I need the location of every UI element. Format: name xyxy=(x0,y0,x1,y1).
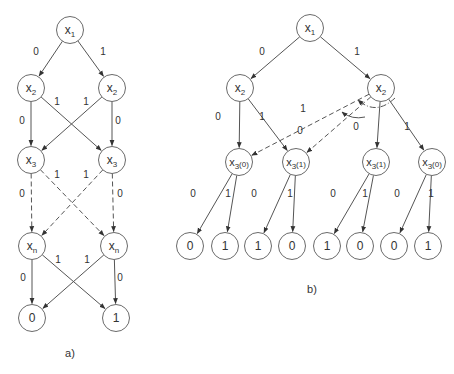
edge-label: 1 xyxy=(83,96,89,107)
panel-a-caption: a) xyxy=(65,347,75,359)
edge-b_x3c-b_l6 xyxy=(363,175,374,231)
edge-b_x1-b_x2r xyxy=(320,37,370,79)
node-b_x3a: x3(0) xyxy=(226,149,253,176)
edge-label: 1 xyxy=(428,188,434,199)
edge-label: 0 xyxy=(117,188,123,199)
edge-b_x2r-b_x3b xyxy=(307,97,371,153)
edge-b_x2r-b_x3c xyxy=(377,101,380,147)
edge-b_x3b-b_l3 xyxy=(264,174,290,232)
edge-label: 0 xyxy=(215,111,221,122)
edge-label: 1 xyxy=(225,188,231,199)
edge-label: 0 xyxy=(394,188,400,199)
node-b_l8: 1 xyxy=(415,233,442,260)
node-label: 0 xyxy=(391,239,398,253)
node-a_t0: 0 xyxy=(19,305,46,332)
edge-label: 1 xyxy=(54,169,60,180)
edge-b_x3d-b_l7 xyxy=(400,174,426,232)
node-a_x3l: x3 xyxy=(18,147,45,174)
edge-b_x2l-b_x3b xyxy=(248,99,287,151)
edge-label: 0 xyxy=(353,121,359,132)
edge-b_x1-b_x2l xyxy=(251,37,300,79)
node-label: 0 xyxy=(187,239,194,253)
node-b_x3d: x3(0) xyxy=(419,149,446,176)
edge-label: 1 xyxy=(287,188,293,199)
edge-label: 1 xyxy=(84,254,90,265)
edge-a_x3r-a_xnl xyxy=(42,170,103,235)
edge-b_x2l-b_x3a xyxy=(239,101,240,147)
swap-arc xyxy=(342,112,365,118)
edge-a_x3l-a_xnl xyxy=(31,173,32,231)
node-a_x2l: x2 xyxy=(18,75,45,102)
node-a_x1: x1 xyxy=(57,17,84,44)
edge-b_x3d-b_l8 xyxy=(429,175,432,231)
node-label: 1 xyxy=(255,239,262,253)
node-label: 1 xyxy=(425,239,432,253)
edge-label: 0 xyxy=(259,46,265,57)
panel-a-decision-diagram: 01011001100110 x1x2x2x3x3xnxn01 a) xyxy=(18,17,130,360)
edge-label: 1 xyxy=(300,103,306,114)
panel-b-nodes: x1x2x2x3(0)x3(1)x3(1)x3(0)01101001 xyxy=(177,15,446,260)
edge-label: 1 xyxy=(259,111,265,122)
edge-label: 1 xyxy=(100,46,106,57)
panel-b-edges: 0101100101010101 xyxy=(190,37,434,234)
node-label: 0 xyxy=(29,311,36,325)
node-a_x2r: x2 xyxy=(99,75,126,102)
edge-label: 0 xyxy=(19,188,25,199)
diagram-canvas: 01011001100110 x1x2x2x3x3xnxn01 a) 01011… xyxy=(0,0,454,374)
edge-b_x3a-b_l2 xyxy=(227,175,236,231)
panel-b-decision-tree: 0101100101010101 x1x2x2x3(0)x3(1)x3(1)x3… xyxy=(177,15,446,296)
edge-label: 0 xyxy=(20,272,26,283)
edge-b_x3b-b_l4 xyxy=(293,175,296,231)
node-b_x2r: x2 xyxy=(368,75,395,102)
edge-a_x3r-a_xnr xyxy=(112,173,113,231)
edge-label: 1 xyxy=(54,96,60,107)
edge-label: 0 xyxy=(251,188,257,199)
edge-label: 0 xyxy=(330,188,336,199)
node-a_xnl: xn xyxy=(19,233,46,260)
panel-b-caption: b) xyxy=(307,283,317,295)
edge-a_x1-a_x2l xyxy=(39,41,62,76)
edge-label: 0 xyxy=(117,272,123,283)
edge-label: 0 xyxy=(115,115,121,126)
node-b_l6: 0 xyxy=(347,233,374,260)
edge-label: 1 xyxy=(404,121,410,132)
edge-label: 1 xyxy=(83,169,89,180)
node-b_l2: 1 xyxy=(212,233,239,260)
node-b_x3c: x3(1) xyxy=(363,149,390,176)
edge-a_xnr-a_t1 xyxy=(114,259,115,303)
node-label: 0 xyxy=(357,239,364,253)
node-b_x2l: x2 xyxy=(227,75,254,102)
node-label: 1 xyxy=(324,239,331,253)
node-b_l7: 0 xyxy=(381,233,408,260)
node-a_xnr: xn xyxy=(101,233,128,260)
node-b_l5: 1 xyxy=(314,233,341,260)
edge-label: 1 xyxy=(362,188,368,199)
node-label: 1 xyxy=(113,311,120,325)
edge-label: 1 xyxy=(354,46,360,57)
node-b_l3: 1 xyxy=(245,233,272,260)
edge-b_x3a-b_l1 xyxy=(197,174,232,234)
node-b_x3b: x3(1) xyxy=(283,149,310,176)
node-label: 0 xyxy=(289,239,296,253)
node-b_l1: 0 xyxy=(177,233,204,260)
node-label: 1 xyxy=(222,239,229,253)
edge-b_x2r-b_x3a xyxy=(252,94,369,155)
node-b_x1: x1 xyxy=(297,15,324,42)
edge-label: 1 xyxy=(55,254,61,265)
edge-label: 0 xyxy=(190,188,196,199)
node-a_t1: 1 xyxy=(103,305,130,332)
node-b_l4: 0 xyxy=(279,233,306,260)
node-a_x3r: x3 xyxy=(99,147,126,174)
edge-label: 0 xyxy=(33,46,39,57)
edge-label: 0 xyxy=(19,115,25,126)
edge-label: 0 xyxy=(297,125,303,136)
